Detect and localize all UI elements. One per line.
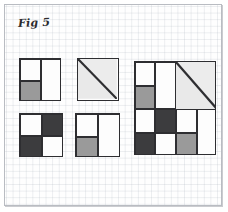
patch-top-left-white <box>20 114 42 136</box>
patch-top-left-white <box>176 109 197 133</box>
patch-right-half-white <box>155 62 176 109</box>
patch-bottom-left-dark <box>135 133 155 155</box>
patch-bottom-right-white <box>42 136 63 157</box>
patch-bottom-left-gray <box>135 86 155 109</box>
figure-label: Fig 5 <box>18 16 51 30</box>
patch-top-left-white <box>20 59 41 81</box>
patch-top-left-white <box>76 114 98 137</box>
patch-right-half-white <box>98 114 120 157</box>
quadrant-top-right-triangle <box>176 62 216 109</box>
block-top-left <box>19 58 61 101</box>
patch-top-left-white <box>135 62 155 86</box>
patch-right-half-white <box>197 109 216 155</box>
block-bottom-left <box>19 113 63 157</box>
block-bottom-middle <box>75 113 120 157</box>
block-large-right <box>134 61 216 155</box>
quadrant-bottom-left-four-patch <box>135 109 176 155</box>
half-square-triangle <box>78 59 117 99</box>
patch-top-left-white <box>135 109 155 133</box>
quadrant-top-right-triangle-triangles <box>176 62 216 109</box>
patch-bottom-left-gray <box>76 137 98 157</box>
figure-frame: Fig 5 <box>4 4 222 206</box>
quadrant-top-left-two-patch <box>135 62 176 109</box>
patch-bottom-left-gray <box>176 133 197 155</box>
patch-top-right-dark <box>42 114 63 136</box>
patch-top-right-dark <box>155 109 176 133</box>
quadrant-bottom-right-two-patch <box>176 109 216 155</box>
patch-bottom-left-dark <box>20 136 42 157</box>
figure-root: Fig 5 <box>0 0 228 212</box>
block-top-middle <box>77 58 119 101</box>
patch-bottom-right-white <box>155 133 176 155</box>
patch-right-half-white <box>41 59 61 101</box>
patch-bottom-left-gray <box>20 81 41 101</box>
